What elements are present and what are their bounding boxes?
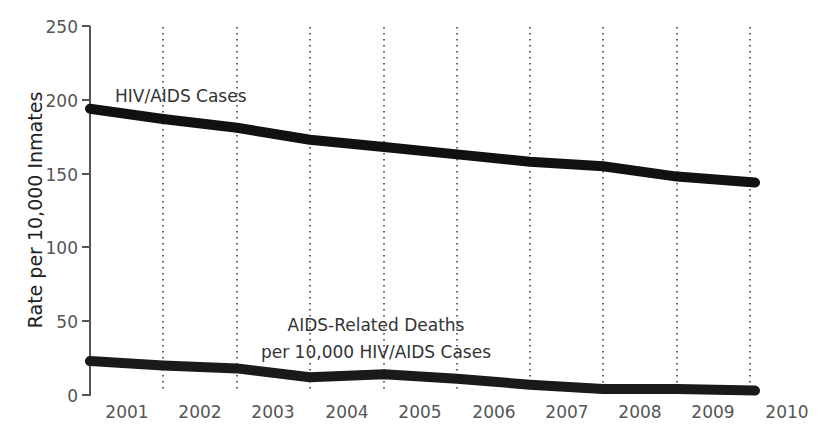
y-tick-labels: 250 200 150 100 50 0 — [46, 17, 78, 406]
y-axis — [82, 26, 90, 396]
series-label-hiv-aids-cases: HIV/AIDS Cases — [115, 86, 247, 106]
y-tick-label: 200 — [46, 91, 78, 111]
y-tick-label: 150 — [46, 165, 78, 185]
x-tick-label: 2006 — [472, 402, 515, 422]
x-tick-labels: 2001 2002 2003 2004 2005 2006 2007 2008 … — [105, 402, 808, 422]
line-chart: 250 200 150 100 50 0 Rate per 10,000 Inm… — [0, 0, 823, 428]
series-label-deaths-line2: per 10,000 HIV/AIDS Cases — [261, 342, 491, 362]
x-tick-label: 2005 — [398, 402, 441, 422]
y-tick-label: 0 — [67, 386, 78, 406]
y-axis-title: Rate per 10,000 Inmates — [24, 92, 46, 329]
y-tick-label: 100 — [46, 238, 78, 258]
x-tick-label: 2002 — [178, 402, 221, 422]
x-tick-label: 2004 — [325, 402, 368, 422]
x-tick-label: 2007 — [545, 402, 588, 422]
series-line-aids-related-deaths — [90, 361, 755, 391]
x-tick-label: 2008 — [618, 402, 661, 422]
y-tick-label: 50 — [56, 312, 78, 332]
y-tick-label: 250 — [46, 17, 78, 37]
gridlines — [163, 27, 750, 392]
series-label-deaths-line1: AIDS-Related Deaths — [288, 315, 465, 335]
x-tick-label: 2009 — [691, 402, 734, 422]
series-line-hiv-aids-cases — [90, 109, 755, 183]
x-tick-label: 2001 — [105, 402, 148, 422]
x-tick-label: 2003 — [251, 402, 294, 422]
x-tick-label: 2010 — [765, 402, 808, 422]
